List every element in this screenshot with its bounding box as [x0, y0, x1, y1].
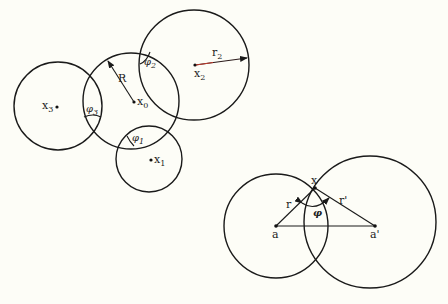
label-phi1: φ1 [132, 132, 144, 146]
label-phi: φ [313, 207, 322, 218]
label-a-prime: a' [370, 228, 380, 241]
label-r: r [286, 198, 292, 211]
label-r-prime: r' [339, 194, 347, 207]
right-figure: a a' x r r' φ [224, 156, 436, 288]
label-phi2: φ2 [144, 56, 156, 70]
circle-x0 [83, 53, 179, 149]
label-x0: x0 [137, 95, 148, 110]
center-dot-x3 [55, 105, 58, 108]
label-x1: x1 [154, 153, 165, 168]
circle-a-prime [304, 156, 436, 288]
circle-x1 [116, 126, 182, 192]
center-dot-x1 [149, 158, 152, 161]
left-figure: R r2 x3 x0 x2 x1 φ3 φ2 φ1 [14, 10, 249, 192]
label-R: R [118, 72, 127, 85]
label-x: x [311, 174, 318, 187]
radius-arrow-r2-accent [196, 63, 213, 66]
diagram-canvas: R r2 x3 x0 x2 x1 φ3 φ2 φ1 a a' x r r' [0, 0, 448, 304]
segment-a-x [276, 188, 315, 226]
label-x3: x3 [42, 99, 53, 114]
angle-arc-phi [302, 198, 329, 207]
label-x2: x2 [194, 67, 205, 82]
label-phi3: φ3 [86, 103, 98, 117]
label-a: a [272, 228, 279, 241]
label-r2: r2 [212, 46, 222, 61]
